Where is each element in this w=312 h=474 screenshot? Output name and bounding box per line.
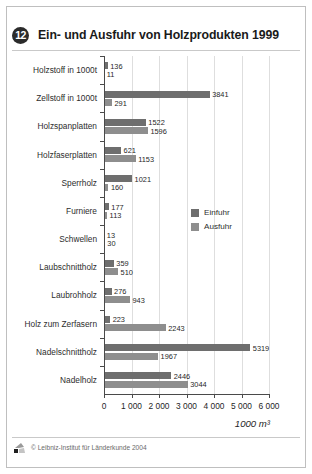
bar-value-label: 3044: [190, 381, 206, 388]
bar-value-label: 1153: [138, 156, 154, 163]
bar-value-label: 1596: [150, 128, 166, 135]
category-label: Holzstoff in 1000t: [33, 66, 97, 74]
gridline: [269, 56, 270, 394]
plot-area: 1361138412911522159662111531021160177113…: [104, 56, 269, 394]
bar-einfuhr: [104, 288, 112, 295]
x-axis-tick: [242, 394, 243, 398]
x-axis-tick-label: 6 000: [259, 401, 280, 411]
bar-value-label: 160: [111, 184, 123, 191]
chart-legend: EinfuhrAusfuhr: [191, 208, 232, 236]
category-label: Furniere: [66, 207, 97, 215]
bar-ausfuhr: [104, 353, 158, 360]
copyright-text: © Leibniz-Institut für Länderkunde 2004: [31, 444, 147, 451]
y-axis-tick: [100, 141, 104, 142]
x-axis-tick: [104, 394, 105, 398]
x-axis-tick-label: 2 000: [149, 401, 170, 411]
legend-item: Einfuhr: [191, 208, 232, 217]
bar-einfuhr: [104, 175, 132, 182]
bar-ausfuhr: [104, 99, 112, 106]
y-axis-line: [104, 56, 105, 394]
y-axis-tick: [100, 112, 104, 113]
bar-value-label: 291: [115, 100, 127, 107]
x-axis-tick: [132, 394, 133, 398]
bar-value-label: 3841: [212, 91, 228, 98]
bar-ausfuhr: [104, 324, 166, 331]
bar-value-label: 276: [114, 288, 126, 295]
bar-value-label: 359: [116, 260, 128, 267]
x-axis-tick: [269, 394, 270, 398]
bar-value-label: 177: [111, 204, 123, 211]
bar-value-label: 621: [124, 147, 136, 154]
bar-ausfuhr: [104, 155, 136, 162]
x-axis-tick: [159, 394, 160, 398]
bar-value-label: 136: [110, 63, 122, 70]
category-label: Schwellen: [59, 235, 97, 243]
footer-divider: [12, 437, 300, 438]
x-axis-tick-label: 4 000: [204, 401, 225, 411]
bar-value-label: 1021: [135, 176, 151, 183]
y-axis-tick: [100, 197, 104, 198]
institute-logo-icon: [13, 441, 26, 454]
bar-einfuhr: [104, 372, 171, 379]
bar-ausfuhr: [104, 381, 188, 388]
chart-page: 12 Ein- und Ausfuhr von Holzprodukten 19…: [0, 0, 312, 474]
y-axis-tick: [100, 366, 104, 367]
legend-label: Ausfuhr: [204, 222, 232, 231]
x-axis-tick-label: 1 000: [121, 401, 142, 411]
bar-value-label: 2446: [174, 373, 190, 380]
legend-item: Ausfuhr: [191, 222, 232, 231]
bar-ausfuhr: [104, 127, 148, 134]
category-label: Nadelschnittholz: [36, 348, 97, 356]
x-axis-unit-label: 1000 m³: [235, 418, 270, 429]
bar-value-label: 2243: [168, 325, 184, 332]
legend-swatch-icon: [191, 209, 199, 217]
bar-value-label: 223: [113, 316, 125, 323]
y-axis-tick: [100, 310, 104, 311]
chart-footer: © Leibniz-Institut für Länderkunde 2004: [13, 441, 147, 454]
category-axis-labels: Holzstoff in 1000tZellstoff in 1000tHolz…: [0, 56, 97, 408]
x-axis-tick-label: 5 000: [231, 401, 252, 411]
bar-value-label: 13: [107, 232, 115, 239]
category-label: Sperrholz: [61, 179, 97, 187]
y-axis-tick: [100, 225, 104, 226]
legend-swatch-icon: [191, 223, 199, 231]
bar-ausfuhr: [104, 268, 118, 275]
bar-einfuhr: [104, 344, 250, 351]
bar-value-label: 113: [110, 212, 122, 219]
bar-ausfuhr: [104, 296, 130, 303]
y-axis-tick: [100, 253, 104, 254]
y-axis-tick: [100, 169, 104, 170]
x-axis-tick-label: 0: [102, 401, 107, 411]
bar-einfuhr: [104, 91, 210, 98]
chart-header: 12 Ein- und Ausfuhr von Holzprodukten 19…: [12, 22, 302, 48]
bar-einfuhr: [104, 147, 121, 154]
figure-number-badge: 12: [12, 27, 29, 44]
bar-value-label: 943: [132, 297, 144, 304]
header-divider: [12, 50, 300, 51]
bar-einfuhr: [104, 119, 146, 126]
bar-value-label: 30: [107, 240, 115, 247]
category-label: Zellstoff in 1000t: [36, 94, 97, 102]
page-title: Ein- und Ausfuhr von Holzprodukten 1999: [38, 28, 279, 42]
x-axis-tick: [214, 394, 215, 398]
legend-label: Einfuhr: [204, 208, 230, 217]
bar-einfuhr: [104, 260, 114, 267]
chart-plot: Holzstoff in 1000tZellstoff in 1000tHolz…: [0, 56, 312, 408]
y-axis-tick: [100, 338, 104, 339]
bar-value-label: 510: [121, 269, 133, 276]
y-axis-tick: [100, 281, 104, 282]
x-axis-tick: [187, 394, 188, 398]
category-label: Laubschnittholz: [39, 263, 97, 271]
bar-value-label: 1967: [161, 353, 177, 360]
bar-value-label: 1522: [148, 119, 164, 126]
x-axis-tick-label: 3 000: [176, 401, 197, 411]
bar-value-label: 5319: [253, 345, 269, 352]
category-label: Laubrohholz: [51, 291, 97, 299]
y-axis-tick: [100, 84, 104, 85]
category-label: Nadelholz: [60, 376, 97, 384]
category-label: Holzfaserplatten: [37, 151, 97, 159]
category-label: Holz zum Zerfasern: [25, 320, 97, 328]
y-axis-tick: [100, 56, 104, 57]
bar-value-label: 11: [107, 71, 115, 78]
category-label: Holzspanplatten: [37, 122, 97, 130]
